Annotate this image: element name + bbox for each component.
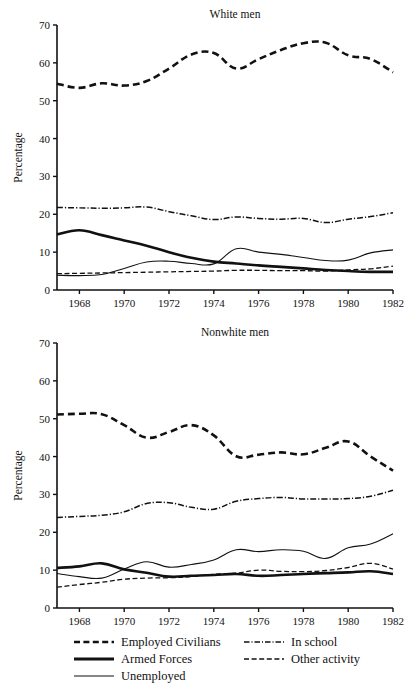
- x-tick-label: 1978: [292, 615, 315, 627]
- legend-item-employed-civilians: Employed Civilians: [74, 634, 221, 650]
- y-tick-label: 30: [39, 170, 51, 182]
- series-line-other-activity: [57, 266, 393, 274]
- legend-swatch-armed-forces: [74, 653, 114, 665]
- x-tick-label: 1976: [248, 615, 271, 627]
- x-tick-label: 1972: [158, 615, 180, 627]
- y-axis-title: Percentage: [12, 450, 25, 500]
- series-line-employed-civilians: [57, 41, 393, 87]
- y-tick-label: 70: [39, 337, 51, 349]
- legend-label-unemployed: Unemployed: [121, 669, 186, 683]
- x-tick-label: 1970: [113, 615, 136, 627]
- series-line-in-school: [57, 490, 393, 517]
- white-men-plot: White men0102030405060701968197019721974…: [0, 0, 417, 318]
- figure-container: White men0102030405060701968197019721974…: [0, 0, 417, 689]
- x-tick-label: 1968: [68, 615, 91, 627]
- y-tick-label: 40: [39, 451, 51, 463]
- y-tick-label: 0: [45, 284, 51, 296]
- y-tick-label: 50: [39, 413, 51, 425]
- x-tick-label: 1976: [248, 297, 271, 309]
- x-tick-label: 1982: [382, 297, 404, 309]
- x-tick-label: 1978: [292, 297, 315, 309]
- y-tick-label: 20: [39, 526, 51, 538]
- y-tick-label: 30: [39, 488, 51, 500]
- series-line-employed-civilians: [57, 413, 393, 471]
- legend-item-in-school: In school: [244, 634, 360, 650]
- legend-label-other-activity: Other activity: [291, 652, 360, 666]
- y-axis-title: Percentage: [12, 132, 25, 182]
- series-line-in-school: [57, 207, 393, 223]
- x-tick-label: 1972: [158, 297, 180, 309]
- x-tick-label: 1980: [337, 297, 360, 309]
- y-tick-label: 50: [39, 95, 51, 107]
- legend-swatch-in-school: [244, 636, 284, 648]
- legend-column-right: In school Other activity: [244, 634, 360, 668]
- legend-label-armed-forces: Armed Forces: [121, 652, 192, 666]
- series-line-armed-forces: [57, 563, 393, 577]
- legend-item-unemployed: Unemployed: [74, 668, 221, 684]
- chart-panel-white-men: White men0102030405060701968197019721974…: [0, 0, 417, 318]
- nonwhite-men-plot: Nonwhite men0102030405060701968197019721…: [0, 318, 417, 636]
- legend-item-armed-forces: Armed Forces: [74, 651, 221, 667]
- figure-legend: Employed Civilians Armed Forces Unemploy…: [0, 634, 417, 689]
- x-tick-label: 1974: [203, 615, 226, 627]
- chart-panel-nonwhite-men: Nonwhite men0102030405060701968197019721…: [0, 318, 417, 636]
- y-tick-label: 10: [39, 564, 51, 576]
- y-tick-label: 70: [39, 19, 51, 31]
- x-tick-label: 1970: [113, 297, 136, 309]
- legend-label-employed-civilians: Employed Civilians: [121, 635, 221, 649]
- y-tick-label: 20: [39, 208, 51, 220]
- y-tick-label: 40: [39, 133, 51, 145]
- y-tick-label: 10: [39, 246, 51, 258]
- series-line-armed-forces: [57, 230, 393, 272]
- legend-swatch-unemployed: [74, 670, 114, 682]
- legend-column-left: Employed Civilians Armed Forces Unemploy…: [74, 634, 221, 685]
- x-tick-label: 1968: [68, 297, 91, 309]
- legend-label-in-school: In school: [291, 635, 337, 649]
- x-tick-label: 1980: [337, 615, 360, 627]
- chart-title: Nonwhite men: [201, 326, 269, 338]
- y-tick-label: 60: [39, 57, 51, 69]
- legend-swatch-employed-civilians: [74, 636, 114, 648]
- y-tick-label: 0: [45, 602, 51, 614]
- x-tick-label: 1982: [382, 615, 404, 627]
- legend-swatch-other-activity: [244, 653, 284, 665]
- legend-item-other-activity: Other activity: [244, 651, 360, 667]
- y-tick-label: 60: [39, 375, 51, 387]
- x-tick-label: 1974: [203, 297, 226, 309]
- chart-title: White men: [210, 8, 261, 20]
